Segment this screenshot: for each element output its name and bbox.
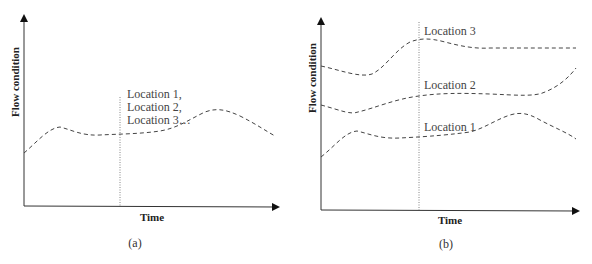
location-2-label: Location 2 [424,78,476,92]
annotation-line-1: Location 1, [127,87,182,101]
x-axis-title: Time [438,214,462,226]
annotation-line-3: Location 3… [127,113,191,127]
location-1-label: Location 1 [424,120,476,134]
y-axis-title: Flow condition [9,47,21,117]
panel-caption: (b) [439,237,453,251]
x-axis-title: Time [140,211,164,223]
y-axis-title: Flow condition [306,43,318,113]
panel-caption: (a) [128,236,141,250]
annotation-line-2: Location 2, [127,100,182,114]
location-3-label: Location 3 [424,24,476,38]
figure: Location 1, Location 2, Location 3… Flow… [0,0,592,264]
panel-b: Location 3 Location 2 Location 1 Flow co… [306,19,578,251]
panel-a: Location 1, Location 2, Location 3… Flow… [9,16,278,250]
location-3-curve [321,39,576,75]
x-axis [24,206,278,207]
x-axis [321,210,578,211]
